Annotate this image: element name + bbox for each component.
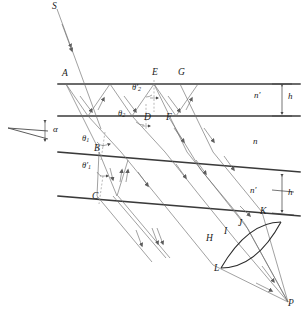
lens-left-arc bbox=[221, 222, 281, 268]
arrow-c3 bbox=[196, 160, 206, 174]
ray-C-out-2 bbox=[113, 196, 166, 258]
incident-arrow bbox=[62, 24, 72, 51]
arrow-b3 bbox=[126, 170, 128, 182]
label-point-F: F bbox=[166, 113, 172, 123]
label-point-L: L bbox=[214, 264, 219, 274]
arc-theta2-prime bbox=[146, 95, 152, 97]
arc-theta2 bbox=[136, 122, 144, 125]
arrow-a4 bbox=[168, 96, 180, 112]
converge-I-P bbox=[238, 243, 288, 302]
label-thickness-top: h bbox=[288, 92, 293, 101]
converge-K-P bbox=[262, 212, 288, 302]
label-point-B: B bbox=[94, 144, 100, 154]
arrow-b5 bbox=[152, 228, 158, 244]
arrow-c6 bbox=[174, 128, 184, 142]
arrow-c4 bbox=[224, 156, 234, 170]
label-point-J: J bbox=[238, 219, 242, 229]
label-index-top-plate: n′ bbox=[254, 91, 260, 100]
label-point-C: C bbox=[92, 192, 98, 202]
ray-B-refl bbox=[99, 152, 128, 196]
label-point-S: S bbox=[52, 2, 57, 12]
converge-extra-P bbox=[245, 224, 288, 302]
arrow-b1 bbox=[110, 168, 113, 180]
label-theta-1: θ1 bbox=[82, 134, 89, 143]
arrow-c2 bbox=[176, 164, 186, 178]
optics-ray-diagram: S A E G D F B C H I J K L P n′ n n′ h h … bbox=[0, 0, 302, 318]
label-point-I: I bbox=[224, 227, 227, 237]
label-point-H: H bbox=[206, 234, 213, 244]
arrow-a1 bbox=[80, 96, 92, 112]
diagram-canvas bbox=[0, 0, 302, 318]
lens-right-arc bbox=[221, 222, 281, 268]
normals-dashed bbox=[99, 80, 154, 204]
ray-internal-4 bbox=[154, 84, 198, 116]
label-theta-2: θ2 bbox=[118, 109, 125, 118]
label-point-A: A bbox=[62, 69, 68, 79]
label-point-E: E bbox=[152, 68, 158, 78]
label-index-gap: n bbox=[253, 137, 258, 146]
ray-transmit-K bbox=[213, 152, 262, 212]
label-point-D: D bbox=[144, 113, 151, 123]
label-theta-1-prime: θ′1 bbox=[82, 161, 91, 170]
label-index-bottom-plate: n′ bbox=[250, 186, 256, 195]
converge-H-P bbox=[213, 265, 288, 302]
arrow-b6 bbox=[157, 228, 163, 244]
ray-internal-1 bbox=[88, 116, 121, 152]
arrow-c5 bbox=[204, 128, 214, 142]
arrow-c1 bbox=[138, 172, 148, 186]
label-wedge-angle-alpha: α bbox=[53, 125, 58, 134]
bottom-plate-upper-surface bbox=[58, 152, 300, 172]
arrow-a3 bbox=[124, 96, 136, 112]
ray-transmit-H bbox=[121, 152, 213, 265]
arc-theta1-prime bbox=[97, 172, 101, 176]
lens bbox=[221, 222, 281, 268]
label-thickness-bottom: h bbox=[288, 188, 293, 197]
ray-A-up bbox=[66, 84, 110, 116]
ray-C-out-1 bbox=[97, 196, 152, 262]
label-point-K: K bbox=[260, 207, 266, 217]
label-point-G: G bbox=[178, 68, 185, 78]
ray-G-down bbox=[180, 84, 213, 152]
figure-caption bbox=[0, 306, 302, 318]
wedge-inset bbox=[8, 122, 48, 141]
label-theta-2-prime: θ′2 bbox=[132, 83, 141, 92]
